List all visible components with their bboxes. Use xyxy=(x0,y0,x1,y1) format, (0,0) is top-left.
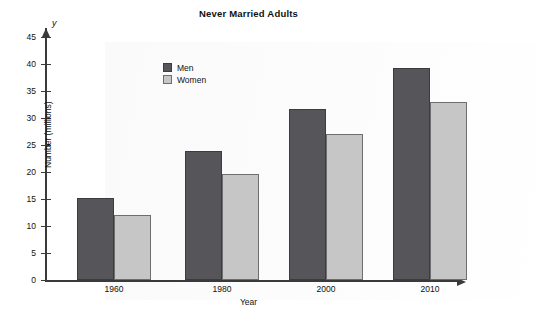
bar-group-1980: 1980 xyxy=(185,26,259,280)
y-axis-tick-label: 40 xyxy=(27,59,36,69)
y-axis-tick-label: 0 xyxy=(31,275,36,285)
x-axis-line xyxy=(45,280,457,282)
y-axis-symbol: y xyxy=(52,18,57,28)
x-axis-tick-label: 2000 xyxy=(289,284,363,294)
bar-2000-men[interactable] xyxy=(289,109,326,280)
y-axis-tick-label: 15 xyxy=(27,194,36,204)
x-axis-tick-label: 1960 xyxy=(77,284,151,294)
bar-2010-women[interactable] xyxy=(430,102,467,280)
bar-1980-women[interactable] xyxy=(222,174,259,280)
y-axis-tick-mark xyxy=(41,91,51,92)
y-axis-tick-mark xyxy=(41,199,51,200)
y-axis-tick-label: 30 xyxy=(27,113,36,123)
y-axis-tick-mark xyxy=(41,253,51,254)
legend-swatch-icon xyxy=(163,75,172,84)
y-axis-tick-label: 20 xyxy=(27,167,36,177)
y-axis-tick-mark xyxy=(41,226,51,227)
y-axis-tick-mark xyxy=(41,172,51,173)
y-axis-tick-label: 5 xyxy=(31,248,36,258)
bar-1960-men[interactable] xyxy=(77,198,114,280)
y-axis-tick-label: 10 xyxy=(27,221,36,231)
y-axis-tick-mark xyxy=(41,64,51,65)
bar-group-1960: 1960 xyxy=(77,26,151,280)
y-axis-tick-label: 45 xyxy=(27,32,36,42)
y-axis-tick-label: 25 xyxy=(27,140,36,150)
bar-2010-men[interactable] xyxy=(393,68,430,280)
x-axis-tick-label: 1980 xyxy=(185,284,259,294)
y-axis-arrow-icon xyxy=(42,28,50,37)
y-axis-tick-mark xyxy=(41,37,51,38)
bar-1980-men[interactable] xyxy=(185,151,222,280)
y-axis-tick-label: 35 xyxy=(27,86,36,96)
legend-swatch-icon xyxy=(163,63,172,72)
chart-title: Never Married Adults xyxy=(0,8,497,19)
bar-2000-women[interactable] xyxy=(326,134,363,280)
x-axis-title: Year xyxy=(0,297,497,307)
plot-area: y x 051015202530354045 Number (millions)… xyxy=(45,20,465,282)
x-axis-tick-label: 2010 xyxy=(393,284,467,294)
bar-1960-women[interactable] xyxy=(114,215,151,280)
y-axis-tick-mark xyxy=(41,280,51,281)
bar-group-2000: 2000 xyxy=(289,26,363,280)
y-axis-title: Number (millions) xyxy=(43,101,53,168)
bar-group-2010: 2010 xyxy=(393,26,467,280)
